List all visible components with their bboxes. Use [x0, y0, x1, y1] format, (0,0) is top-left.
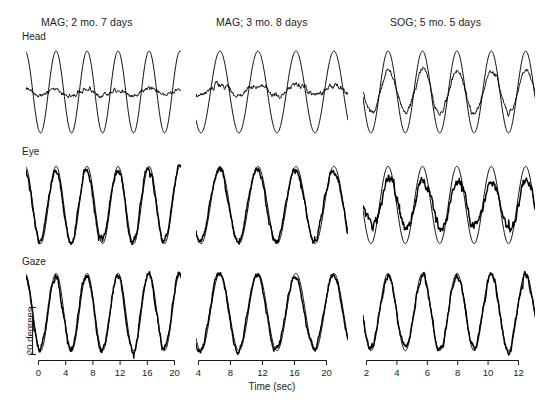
- trace-head: [363, 67, 535, 116]
- x-tick-label: 8: [228, 367, 233, 378]
- axis-line: [367, 361, 519, 366]
- y-scale-label: 20 degrees: [24, 307, 35, 355]
- trace-stimulus: [26, 166, 181, 243]
- x-tick-label: 16: [289, 367, 300, 378]
- trace-gaze: [363, 272, 535, 355]
- trace-eye: [196, 167, 348, 244]
- x-tick-label: 6: [425, 367, 430, 378]
- axis-line: [199, 361, 327, 366]
- x-tick-label: 4: [196, 367, 201, 378]
- x-tick-label: 20: [169, 367, 180, 378]
- column-title-2: MAG; 3 mo. 8 days: [216, 16, 308, 28]
- x-tick-label: 2: [364, 367, 369, 378]
- trace-panel-eye-col3: [363, 155, 535, 255]
- figure-canvas: MAG; 2 mo. 7 days MAG; 3 mo. 8 days SOG;…: [0, 0, 542, 407]
- trace-gaze: [26, 272, 181, 359]
- trace-stimulus: [196, 273, 348, 350]
- trace-gaze: [196, 273, 348, 355]
- x-tick-label: 4: [394, 367, 399, 378]
- x-tick-label: 16: [142, 367, 153, 378]
- trace-stimulus: [196, 51, 348, 133]
- x-tick-label: 4: [63, 367, 68, 378]
- x-axis-title: Time (sec): [249, 381, 296, 392]
- trace-panel-head-col1: [26, 42, 181, 142]
- trace-stimulus: [26, 273, 181, 350]
- x-tick-label: 8: [90, 367, 95, 378]
- x-tick-label: 12: [513, 367, 524, 378]
- trace-panel-gaze-col3: [363, 262, 535, 362]
- x-tick-label: 10: [483, 367, 494, 378]
- x-tick-label: 12: [257, 367, 268, 378]
- column-title-1: MAG; 2 mo. 7 days: [41, 16, 133, 28]
- x-tick-label: 8: [455, 367, 460, 378]
- trace-panel-head-col3: [363, 42, 535, 142]
- trace-eye: [363, 175, 535, 232]
- trace-head: [196, 81, 348, 99]
- x-axis-col1: 048121620: [38, 360, 176, 367]
- axis-line: [39, 361, 175, 366]
- trace-eye: [26, 165, 181, 245]
- trace-panel-eye-col2: [196, 155, 348, 255]
- trace-panel-gaze-col2: [196, 262, 348, 362]
- x-tick-label: 12: [115, 367, 126, 378]
- trace-panel-gaze-col1: [26, 262, 181, 362]
- x-tick-label: 20: [321, 367, 332, 378]
- x-axis-col2: 48121620: [198, 360, 328, 367]
- column-title-3: SOG; 5 mo. 5 days: [390, 16, 481, 28]
- trace-panel-eye-col1: [26, 155, 181, 255]
- row-label-head: Head: [22, 31, 46, 42]
- x-tick-label: 0: [36, 367, 41, 378]
- trace-panel-head-col2: [196, 42, 348, 142]
- x-axis-col3: 24681012: [366, 360, 520, 367]
